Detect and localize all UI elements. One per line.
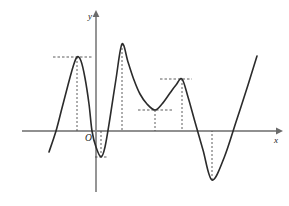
x-axis-label: x [274, 136, 278, 145]
x-axis-arrowhead [276, 127, 283, 134]
function-curve [49, 44, 257, 180]
x-axis [22, 127, 283, 134]
y-axis [93, 10, 100, 192]
origin-label: O [85, 134, 92, 144]
graph-canvas [0, 0, 289, 206]
y-axis-label: y [88, 12, 92, 21]
y-axis-arrowhead [93, 10, 100, 17]
guide-lines-group [53, 44, 212, 180]
function-graph-figure: y x O [0, 0, 289, 206]
